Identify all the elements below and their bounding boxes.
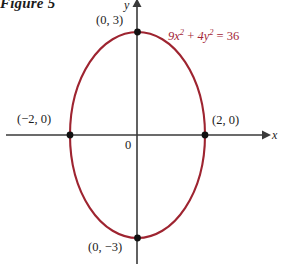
x-axis-label: x	[272, 128, 277, 143]
point-label-top: (0, 3)	[96, 13, 123, 28]
point-label-bottom: (0, −3)	[88, 240, 122, 255]
point-marker-left	[67, 132, 74, 139]
point-marker-right	[202, 132, 209, 139]
x-axis-arrow-icon	[262, 131, 271, 140]
figure-caption: Figure 5	[0, 0, 55, 12]
y-axis-label: y	[124, 0, 129, 13]
point-label-left: (−2, 0)	[17, 112, 51, 127]
origin-label: 0	[125, 138, 131, 153]
point-marker-bottom	[134, 235, 141, 242]
figure-container: Figure 5 x y 0 (0, 3) (2, 0) (0, −3) (−2…	[0, 0, 287, 264]
equation-right-hand-side: 36	[227, 29, 240, 43]
equation-equals-operator: =	[217, 29, 224, 43]
equation-annotation: 9x2 + 4y2 = 36	[168, 27, 239, 44]
y-axis-arrow-icon	[133, 0, 142, 7]
ellipse-plot	[0, 0, 287, 264]
point-label-right: (2, 0)	[212, 113, 239, 128]
point-marker-top	[134, 29, 141, 36]
